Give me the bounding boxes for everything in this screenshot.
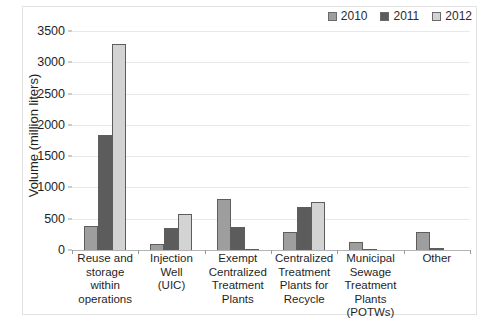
- x-axis-label-line: Sewage: [338, 266, 402, 280]
- x-axis-label-line: Reuse and: [73, 252, 137, 266]
- x-axis-label: Injection Well(UIC): [138, 252, 204, 320]
- x-axis-label-line: Exempt: [206, 252, 270, 266]
- x-axis-label-line: (UIC): [139, 279, 203, 293]
- legend-item-2011[interactable]: 2011: [380, 10, 419, 22]
- bar-2011[interactable]: [430, 248, 444, 250]
- x-axis-label: ExemptCentralizedTreatmentPlants: [205, 252, 271, 320]
- bar-group-inner: [72, 31, 138, 250]
- y-tick-label: 0: [58, 243, 65, 257]
- bar-2010[interactable]: [150, 244, 164, 250]
- legend-label: 2010: [341, 10, 368, 22]
- x-axis-labels: Reuse andstorage withinoperationsInjecti…: [72, 252, 470, 320]
- x-axis-label-line: Recycle: [272, 293, 336, 307]
- x-axis-label-line: Injection Well: [139, 252, 203, 279]
- x-axis-label-line: Centralized: [272, 252, 336, 266]
- x-axis-label-line: Centralized: [206, 266, 270, 280]
- y-tick-label: 2000: [37, 118, 65, 132]
- bar-group-inner: [205, 31, 271, 250]
- y-tick-label: 1500: [37, 149, 65, 163]
- legend-swatch-icon: [380, 12, 389, 21]
- x-axis-label-line: operations: [73, 293, 137, 307]
- bar-2010[interactable]: [349, 242, 363, 250]
- bar-2010[interactable]: [416, 232, 430, 250]
- x-axis-label-line: Treatment: [272, 266, 336, 280]
- bar-2010[interactable]: [84, 226, 98, 250]
- legend-label: 2011: [393, 10, 419, 22]
- x-axis-label-line: Treatment: [338, 279, 402, 293]
- x-axis-label-line: Plants: [338, 293, 402, 307]
- legend-item-2010[interactable]: 2010: [328, 10, 368, 22]
- x-axis-label: Reuse andstorage withinoperations: [72, 252, 138, 320]
- bar-group: [138, 31, 204, 250]
- x-axis-label-line: Municipal: [338, 252, 402, 266]
- bar-2012[interactable]: [112, 44, 126, 250]
- bar-group-inner: [138, 31, 204, 250]
- bar-2011[interactable]: [231, 227, 245, 250]
- x-axis-label: Other: [404, 252, 470, 320]
- bar-group: [404, 31, 470, 250]
- legend-swatch-icon: [328, 12, 337, 21]
- y-tick-label: 3500: [37, 24, 65, 38]
- y-tick-label: 1000: [37, 180, 65, 194]
- bar-group-inner: [271, 31, 337, 250]
- x-tick-mark: [470, 250, 471, 254]
- bars-layer: [72, 31, 470, 250]
- bar-group: [271, 31, 337, 250]
- y-tick-label: 2500: [37, 87, 65, 101]
- legend-item-2012[interactable]: 2012: [432, 10, 472, 22]
- y-tick-label: 3000: [37, 55, 65, 69]
- bar-2012[interactable]: [311, 202, 325, 250]
- bar-group-inner: [337, 31, 403, 250]
- plot-area: 3500300025002000150010005000: [72, 31, 470, 250]
- x-axis-label-line: Plants: [206, 293, 270, 307]
- legend-swatch-icon: [432, 12, 441, 21]
- legend-label: 2012: [445, 10, 472, 22]
- chart-figure: 201020112012 Volume (million liters) 350…: [0, 0, 484, 333]
- bar-group: [205, 31, 271, 250]
- x-axis-label-line: (POTWs): [338, 306, 402, 320]
- bar-group: [337, 31, 403, 250]
- x-axis-label: MunicipalSewageTreatmentPlants(POTWs): [337, 252, 403, 320]
- bar-group: [72, 31, 138, 250]
- x-axis-label-line: Other: [405, 252, 469, 266]
- bar-2010[interactable]: [283, 232, 297, 250]
- x-axis-label: CentralizedTreatmentPlants forRecycle: [271, 252, 337, 320]
- x-axis-label-line: storage within: [73, 266, 137, 293]
- bar-2012[interactable]: [245, 249, 259, 250]
- bar-2012[interactable]: [178, 214, 192, 250]
- bar-group-inner: [404, 31, 470, 250]
- bar-2011[interactable]: [297, 207, 311, 250]
- y-tick-label: 500: [44, 212, 65, 226]
- bar-2011[interactable]: [164, 228, 178, 250]
- bar-2011[interactable]: [98, 135, 112, 250]
- bar-2011[interactable]: [363, 249, 377, 250]
- x-axis-label-line: Plants for: [272, 279, 336, 293]
- x-axis-label-line: Treatment: [206, 279, 270, 293]
- chart-legend: 201020112012: [328, 10, 472, 22]
- bar-2010[interactable]: [217, 199, 231, 250]
